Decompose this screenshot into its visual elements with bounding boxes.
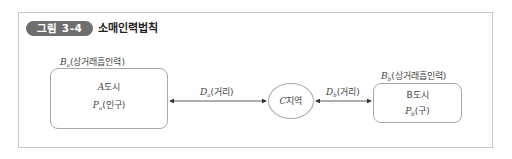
distance-arrows — [0, 0, 512, 159]
